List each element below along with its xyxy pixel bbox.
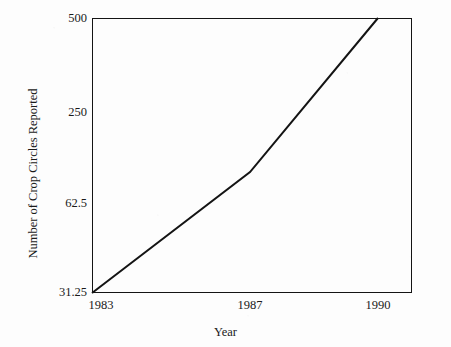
y-tick-label-62-5: 62.5 bbox=[65, 197, 87, 210]
y-tick-label-500: 500 bbox=[68, 12, 87, 25]
chart-figure: 500 250 62.5 31.25 1983 1987 1990 Year N… bbox=[0, 0, 451, 347]
series-line-crop-circles bbox=[92, 18, 378, 293]
data-line-svg bbox=[92, 18, 412, 293]
y-tick-label-250: 250 bbox=[68, 106, 87, 119]
y-tick-label-31-25: 31.25 bbox=[59, 286, 87, 299]
x-tick-label-1987: 1987 bbox=[238, 299, 263, 312]
y-axis-title: Number of Crop Circles Reported bbox=[22, 0, 44, 347]
x-tick-label-1990: 1990 bbox=[366, 299, 391, 312]
x-axis-title: Year bbox=[0, 325, 451, 340]
x-tick-label-1983: 1983 bbox=[89, 299, 114, 312]
